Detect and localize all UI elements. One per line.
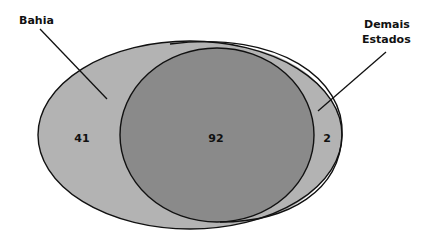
label-bahia: Bahia — [19, 14, 54, 27]
label-demais-line2: Estados — [362, 33, 411, 46]
label-demais-line1: Demais — [364, 18, 410, 31]
demais-leader-line — [318, 52, 386, 111]
count-bahia-only: 41 — [74, 132, 89, 145]
venn-diagram: Bahia Demais Estados 41 92 2 — [0, 0, 431, 239]
count-intersection: 92 — [208, 132, 223, 145]
count-demais-only: 2 — [323, 132, 331, 145]
